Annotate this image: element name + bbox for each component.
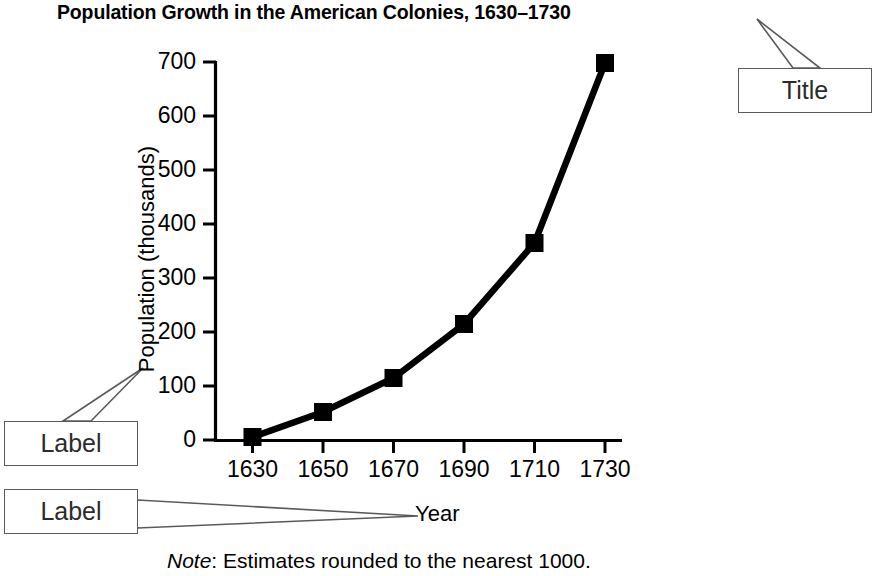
chart-note: Note: Estimates rounded to the nearest 1…: [167, 549, 591, 573]
callout-label-y-box: Label: [4, 421, 138, 466]
callout-label-x-label: Label: [40, 497, 101, 526]
callout-label-y-label: Label: [40, 429, 101, 458]
callout-title-box: Title: [738, 68, 872, 113]
data-markers: [244, 54, 615, 446]
data-point-1630: [244, 428, 262, 446]
data-point-1690: [455, 315, 473, 333]
callout-title-label: Title: [782, 76, 828, 105]
x-axis-title: Year: [415, 502, 459, 526]
y-axis-title: Population (thousands): [136, 109, 158, 409]
callout-label-x-pointer: [138, 500, 418, 528]
note-text: Estimates rounded to the nearest 1000.: [217, 549, 591, 572]
x-tick-label-1690: 1690: [424, 458, 504, 481]
data-point-1710: [526, 234, 544, 252]
data-line: [253, 63, 606, 437]
data-point-1670: [385, 369, 403, 387]
x-tick-label-1710: 1710: [495, 458, 575, 481]
data-point-1730: [596, 54, 614, 72]
x-tick-label-1630: 1630: [213, 458, 293, 481]
callout-label-x-box: Label: [4, 489, 138, 534]
chart-figure: Population Growth in the American Coloni…: [0, 0, 874, 576]
callout-title-pointer: [757, 19, 820, 68]
y-tick-label-700: 700: [126, 50, 196, 73]
x-tick-label-1650: 1650: [283, 458, 363, 481]
data-point-1650: [314, 403, 332, 421]
x-tick-label-1730: 1730: [565, 458, 645, 481]
note-emphasis: Note: [167, 549, 211, 572]
x-tick-label-1670: 1670: [354, 458, 434, 481]
